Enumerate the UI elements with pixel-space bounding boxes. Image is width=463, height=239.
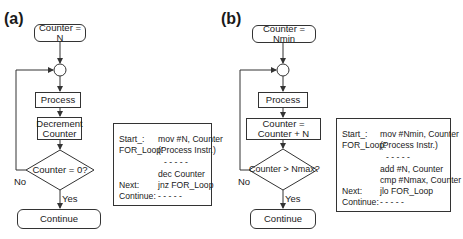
panel-b-label: (b)	[221, 10, 241, 28]
code-instr: - - - - -	[164, 157, 188, 168]
decrement-node-a: Decrement Counter	[37, 117, 82, 140]
code-instr: - - - - -	[158, 191, 182, 202]
code-instr: jlo FOR_Loop	[380, 186, 433, 197]
code-instr: - - - - -	[386, 152, 410, 163]
code-label: FOR_Loop:	[119, 145, 163, 156]
process-node-a: Process	[35, 92, 81, 108]
code-instr: dec Counter	[158, 169, 205, 180]
code-instr: - - - - -	[380, 197, 404, 208]
code-instr: (Process Instr.)	[158, 145, 216, 156]
code-label: Start_:	[342, 129, 367, 140]
decision-node-a: Counter = 0?	[26, 164, 94, 175]
code-instr: mov #N, Counter	[158, 134, 223, 145]
code-box-b: Start_: mov #Nmin, Counter FOR_Loop: (Pr…	[336, 118, 451, 212]
continue-node-b: Continue	[250, 209, 316, 229]
code-instr: (Process Instr.)	[380, 140, 438, 151]
code-instr: mov #Nmin, Counter	[380, 129, 459, 140]
yes-label-a: Yes	[62, 193, 78, 204]
no-label-a: No	[14, 176, 26, 187]
continue-node-a: Continue	[17, 209, 101, 229]
code-box-a: Start_: mov #N, Counter FOR_Loop: (Proce…	[113, 123, 212, 206]
code-label: Next:	[342, 186, 362, 197]
code-instr: cmp #Nmax, Counter	[380, 175, 461, 186]
code-label: Continue:	[119, 191, 156, 202]
decision-node-b: Counter > Nmax?	[249, 164, 317, 174]
yes-label-b: Yes	[285, 193, 301, 204]
code-instr: add #N, Counter	[380, 164, 443, 175]
init-node-a: Counter = N	[34, 24, 86, 42]
code-label: Next:	[119, 180, 139, 191]
init-node-b: Counter = Nmin	[252, 25, 316, 43]
increment-node-b: Counter = Counter + N	[246, 118, 321, 140]
code-instr: jnz FOR_Loop	[158, 180, 213, 191]
decrement-line2: Counter	[43, 129, 77, 139]
panel-a-label: (a)	[4, 10, 24, 28]
decrement-line1: Decrement	[36, 119, 82, 129]
process-node-b: Process	[258, 92, 308, 108]
no-label-b: No	[238, 176, 250, 187]
code-label: Continue:	[342, 197, 379, 208]
code-label: Start_:	[119, 134, 144, 145]
